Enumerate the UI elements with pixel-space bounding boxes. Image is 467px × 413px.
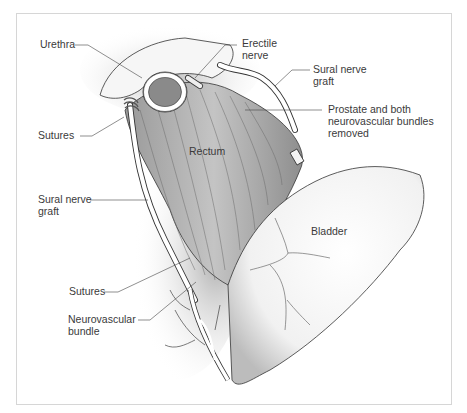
label-sural-graft-left-line2: graft [38, 206, 59, 218]
label-sutures-bottom: Sutures [69, 286, 105, 298]
label-neurovascular-bundle-line1: Neurovascular [68, 314, 136, 326]
label-erectile-nerve-line1: Erectile [242, 38, 277, 50]
label-sural-graft-left-line1: Sural nerve [38, 194, 92, 206]
anatomical-illustration [0, 0, 467, 413]
label-neurovascular-bundle-line2: bundle [68, 326, 100, 338]
label-prostate-line1: Prostate and both [328, 104, 411, 116]
label-sural-graft-top-line2: graft [313, 76, 334, 88]
label-rectum: Rectum [189, 146, 225, 158]
label-prostate-line2: neurovascular bundles [328, 116, 434, 128]
label-erectile-nerve-line2: nerve [242, 50, 268, 62]
label-prostate-line3: removed [328, 128, 369, 140]
label-bladder: Bladder [311, 226, 347, 238]
label-sural-graft-top-line1: Sural nerve [313, 64, 367, 76]
label-sutures-top: Sutures [38, 130, 74, 142]
label-urethra: Urethra [40, 39, 75, 51]
